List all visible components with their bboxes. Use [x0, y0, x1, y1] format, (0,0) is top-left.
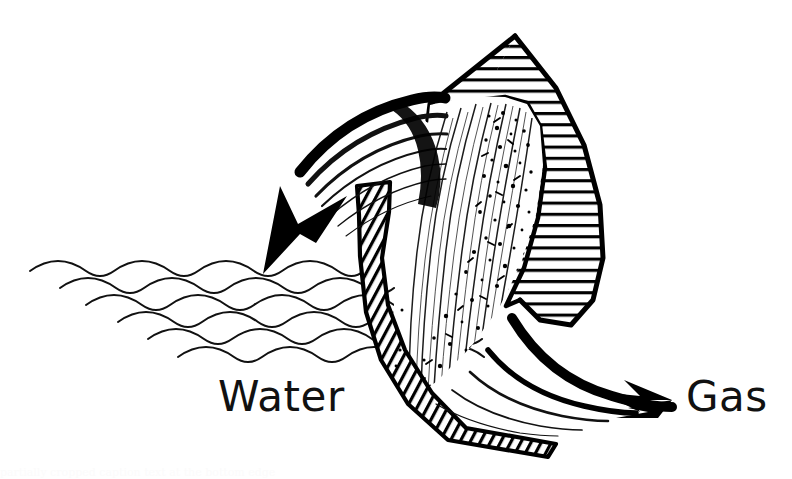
water-label: Water — [218, 374, 345, 420]
figure-canvas — [0, 0, 792, 479]
gas-label: Gas — [686, 374, 768, 420]
clipped-caption: partially cropped caption text at the bo… — [0, 466, 792, 479]
